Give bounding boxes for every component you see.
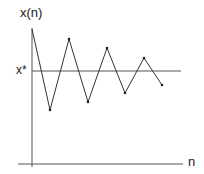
data-point <box>143 57 146 60</box>
x-axis-label: n <box>188 155 195 168</box>
fixed-point-label: x* <box>16 64 27 76</box>
data-point <box>124 92 127 95</box>
data-point <box>49 109 52 112</box>
data-point <box>161 84 164 87</box>
y-axis-label: x(n) <box>20 6 42 19</box>
data-point <box>87 101 90 104</box>
data-point <box>68 38 71 41</box>
data-point <box>106 47 109 50</box>
chart-canvas <box>0 0 204 174</box>
series-line <box>32 29 162 110</box>
